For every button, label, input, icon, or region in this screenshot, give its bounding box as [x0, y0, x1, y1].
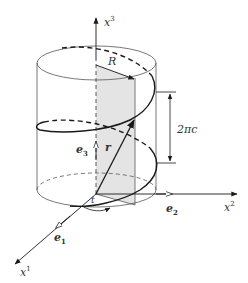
- x1-axis: [15, 194, 96, 264]
- position-vector-label: r: [105, 142, 111, 153]
- x3-axis-label: x3: [104, 16, 115, 28]
- pitch-label: 2πc: [177, 124, 197, 135]
- x1-axis-label: x1: [20, 266, 31, 278]
- e1-label: e1: [54, 232, 66, 245]
- diagram-graphic: [0, 0, 248, 283]
- x2-axis-label: x2: [224, 201, 235, 213]
- pitch-dimension-2pic: [156, 92, 176, 163]
- helix-diagram: x3 R 2πc e3 r t e2 x2 e1 x1: [0, 0, 248, 283]
- basis-vector-e1: [56, 216, 70, 228]
- e2-label: e2: [166, 203, 178, 216]
- e3-label: e3: [76, 144, 88, 157]
- angle-label: t: [91, 196, 95, 205]
- radius-label: R: [108, 56, 116, 67]
